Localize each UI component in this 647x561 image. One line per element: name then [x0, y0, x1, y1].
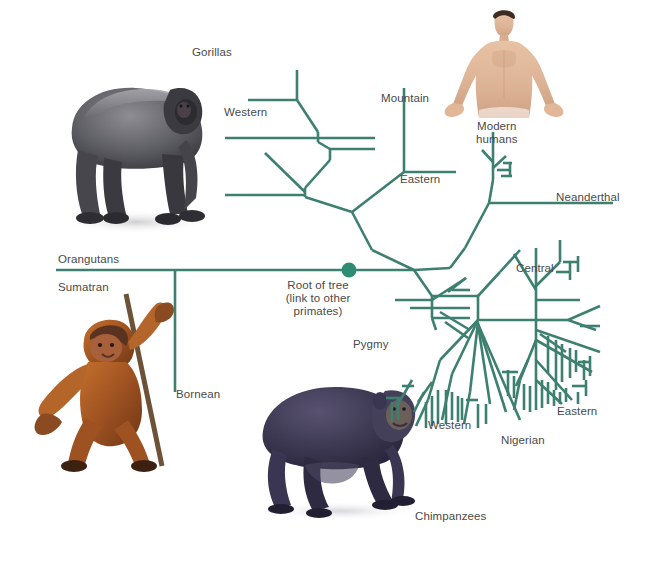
label-central-chimp: Central — [516, 262, 554, 275]
pygmy-clade — [395, 278, 470, 338]
chimp-backbone — [432, 250, 536, 320]
label-eastern-gorilla: Eastern — [400, 173, 440, 186]
gorilla-clade — [225, 70, 375, 197]
root-dot-marker — [342, 263, 357, 278]
label-root-of-tree: Root of tree (link to other primates) — [263, 279, 373, 318]
label-nigerian-chimp: Nigerian — [501, 434, 545, 447]
label-mountain-gorilla: Mountain — [381, 92, 429, 105]
label-eastern-chimp: Eastern — [557, 405, 597, 418]
label-bornean: Bornean — [176, 388, 220, 401]
label-modern-humans: Modern humans — [476, 120, 518, 146]
label-neanderthal: Neanderthal — [556, 191, 620, 204]
western-nigerian-chimp-clade — [386, 320, 520, 428]
label-pygmy-chimp: Pygmy — [353, 338, 389, 351]
label-sumatran: Sumatran — [58, 281, 109, 294]
gorilla-stem — [305, 197, 352, 212]
figure-canvas: Gorillas Western Mountain Eastern Modern… — [0, 0, 647, 561]
label-chimpanzees: Chimpanzees — [415, 510, 486, 523]
label-western-gorilla: Western — [224, 106, 267, 119]
label-western-chimp: Western — [428, 419, 471, 432]
gorilla-trunk — [352, 212, 372, 250]
label-orangutans: Orangutans — [58, 253, 119, 266]
eastern-chimp-clade — [502, 340, 586, 412]
label-gorillas: Gorillas — [192, 46, 232, 59]
